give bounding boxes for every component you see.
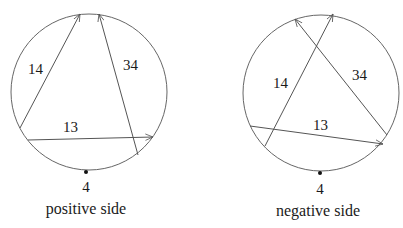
caption-negative-side: negative side <box>276 202 360 220</box>
point-4-label: 4 <box>82 179 90 195</box>
arrow-13 <box>28 137 153 140</box>
point-4-dot <box>318 171 322 175</box>
label-13: 13 <box>63 119 78 135</box>
boundary-circle <box>243 15 399 171</box>
panel-positive-side: 14 34 13 4 positive side <box>11 14 167 218</box>
label-34: 34 <box>352 67 368 83</box>
chord-diagram: 14 34 13 4 positive side 14 34 13 4 nega… <box>0 0 403 228</box>
arrow-34 <box>99 14 138 155</box>
label-34: 34 <box>123 57 139 73</box>
point-4-label: 4 <box>316 181 324 197</box>
label-14: 14 <box>28 61 44 77</box>
label-14: 14 <box>273 75 289 91</box>
arrow-34 <box>295 19 387 135</box>
point-4-dot <box>84 170 88 174</box>
panel-negative-side: 14 34 13 4 negative side <box>243 14 399 220</box>
label-13: 13 <box>313 117 328 133</box>
caption-positive-side: positive side <box>46 200 126 218</box>
boundary-circle <box>11 14 167 170</box>
